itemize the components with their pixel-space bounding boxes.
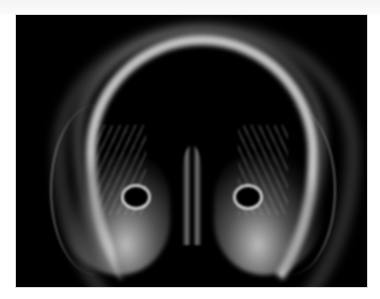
right-foramen: [236, 187, 260, 207]
right-lower-lobe: [214, 155, 324, 275]
main-bright-arch: [86, 35, 318, 287]
secondary-arch: [74, 27, 326, 287]
left-lower-lobe: [60, 155, 170, 275]
right-streaks: [238, 125, 288, 215]
outer-halo-arch: [52, 21, 360, 287]
left-foramen: [124, 187, 148, 207]
right-outer-contour: [244, 105, 336, 275]
image-frame: [16, 15, 367, 287]
central-cavity: [116, 85, 268, 285]
central-spine: [182, 145, 202, 245]
left-outer-contour: [50, 105, 142, 275]
top-margin: [0, 0, 380, 14]
left-streaks: [96, 125, 146, 215]
